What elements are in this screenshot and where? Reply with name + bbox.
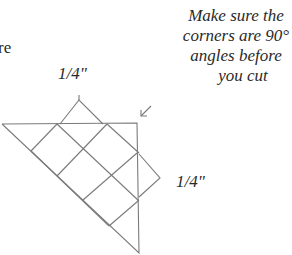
top-dimension-marker bbox=[60, 100, 103, 124]
right-dimension-marker bbox=[139, 154, 160, 197]
corner-arrow bbox=[141, 106, 151, 116]
triangle-grid-diagram bbox=[0, 0, 292, 255]
triangle-outline bbox=[2, 123, 139, 253]
